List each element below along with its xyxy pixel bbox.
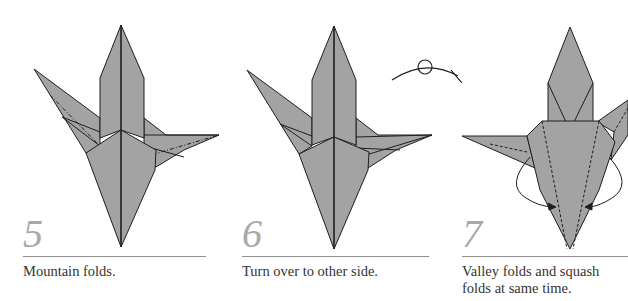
caption-line: folds at same time.: [462, 280, 599, 297]
turn-over-arrow-icon: [392, 60, 462, 83]
step-6-figure: [247, 26, 432, 249]
body: [527, 121, 615, 249]
step-number-5: 5: [23, 214, 43, 254]
step-caption-6: Turn over to other side.: [242, 263, 378, 280]
step-caption-5: Mountain folds.: [23, 263, 116, 280]
caption-line: Mountain folds.: [23, 263, 116, 280]
left-wing: [462, 136, 535, 168]
divider-rule: [23, 256, 206, 257]
divider-rule: [462, 256, 628, 257]
step-7-figure: [462, 27, 628, 249]
step-5-figure: [34, 25, 219, 247]
caption-line: Valley folds and squash: [462, 263, 599, 280]
step-number-6: 6: [242, 214, 262, 254]
neck-point: [100, 25, 144, 138]
step-caption-7: Valley folds and squash folds at same ti…: [462, 263, 599, 297]
step-number-7: 7: [462, 214, 482, 254]
caption-line: Turn over to other side.: [242, 263, 378, 280]
left-wing: [34, 69, 100, 153]
neck-point: [548, 27, 593, 122]
divider-rule: [242, 256, 429, 257]
